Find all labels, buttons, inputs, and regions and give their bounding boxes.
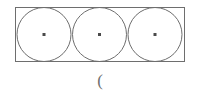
center-dot-2 [98,33,101,36]
center-dot-3 [154,33,157,36]
caption-label: ( [0,71,200,91]
figure-container: ( [0,0,200,100]
center-dot-1 [43,33,46,36]
